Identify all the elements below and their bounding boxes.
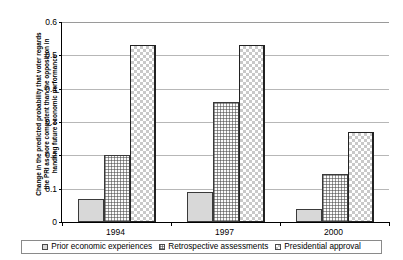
legend-entry[interactable]: Prior economic experiences <box>42 243 152 251</box>
bar <box>322 174 348 222</box>
bar <box>187 192 213 222</box>
legend-swatch-icon <box>275 244 281 250</box>
y-axis-title: Change in the predicted probability that… <box>0 0 34 228</box>
legend-entry[interactable]: Retrospective assessments <box>159 243 268 251</box>
chart-legend: Prior economic experiencesRetrospective … <box>21 240 382 254</box>
chart-figure: Change in the predicted probability that… <box>0 0 403 260</box>
legend-label: Prior economic experiences <box>51 243 152 251</box>
legend-entry[interactable]: Presidential approval <box>275 243 360 251</box>
y-axis-tick-label: 0.6 <box>21 18 57 27</box>
legend-swatch-icon <box>42 244 48 250</box>
plot-area <box>61 22 389 223</box>
bar <box>239 45 265 222</box>
bar <box>348 132 374 222</box>
x-axis-tick-mark <box>389 222 390 226</box>
bar <box>78 199 104 222</box>
y-axis-title-line-2: the PRI as more competent than the oppos… <box>43 39 51 190</box>
x-axis-tick-mark <box>62 222 63 226</box>
y-axis-tick-label: 0.3 <box>21 118 57 127</box>
y-axis-tick-label: 0.5 <box>21 51 57 60</box>
bar <box>296 209 322 222</box>
y-axis-tick-label: 0.1 <box>21 184 57 193</box>
y-axis-tick-label: 0.4 <box>21 84 57 93</box>
x-axis-category-label: 1997 <box>170 228 279 237</box>
legend-swatch-icon <box>159 244 165 250</box>
x-axis-category-label: 1994 <box>61 228 170 237</box>
bar <box>213 102 239 222</box>
bar <box>130 45 156 222</box>
legend-label: Presidential approval <box>284 243 360 251</box>
y-axis-tick-label: 0.2 <box>21 151 57 160</box>
y-axis-tick-label: 0 <box>21 218 57 227</box>
x-axis-category-label: 2000 <box>279 228 388 237</box>
x-axis-tick-mark <box>171 222 172 226</box>
x-axis-tick-mark <box>280 222 281 226</box>
bar <box>104 155 130 222</box>
legend-label: Retrospective assessments <box>168 243 268 251</box>
bar-group <box>62 22 171 222</box>
bar-group <box>171 22 280 222</box>
bar-group <box>280 22 389 222</box>
